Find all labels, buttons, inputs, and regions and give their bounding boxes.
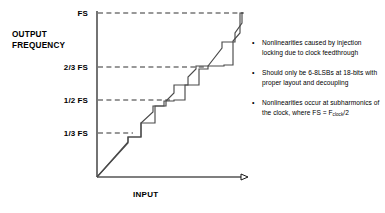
x-axis-title: INPUT bbox=[133, 190, 159, 199]
bullet-text-run: Nonlinearities occur at subharmonics of … bbox=[262, 99, 379, 116]
y-tick-label-half-fs: 1/2 FS bbox=[28, 96, 88, 105]
x-axis-arrow-icon bbox=[241, 174, 248, 180]
transfer-curve-steps bbox=[97, 13, 244, 177]
y-axis-title: OUTPUT FREQUENCY bbox=[12, 30, 65, 51]
transfer-function-figure: OUTPUT FREQUENCY FS 2/3 FS 1/2 FS 1/3 FS… bbox=[0, 0, 255, 213]
bullet-text: Nonlinearities occur at subharmonics of … bbox=[262, 98, 383, 118]
bullet-list: • Nonlinearities caused by injection loc… bbox=[252, 38, 383, 130]
bullet-text: Should only be 6-8LSBs at 18-bits with p… bbox=[262, 68, 383, 87]
slide-canvas: OUTPUT FREQUENCY FS 2/3 FS 1/2 FS 1/3 FS… bbox=[0, 0, 385, 213]
y-tick-label-third-fs: 1/3 FS bbox=[28, 129, 88, 138]
bullet-marker-icon: • bbox=[252, 68, 262, 78]
list-item: • Nonlinearities occur at subharmonics o… bbox=[252, 98, 383, 118]
y-axis-title-line1: OUTPUT bbox=[12, 30, 65, 41]
bullet-marker-icon: • bbox=[252, 98, 262, 108]
bullet-marker-icon: • bbox=[252, 38, 262, 48]
bullet-text: Nonlinearities caused by injection locki… bbox=[262, 38, 383, 57]
bullet-text-run: Nonlinearities caused by injection locki… bbox=[262, 39, 362, 56]
y-axis-title-line2: FREQUENCY bbox=[12, 41, 65, 52]
bullet-text-run: Should only be 6-8LSBs at 18-bits with p… bbox=[262, 69, 377, 86]
y-tick-label-two-thirds-fs: 2/3 FS bbox=[28, 63, 88, 72]
bullet-text-run: /2 bbox=[343, 109, 349, 116]
y-tick-label-fs: FS bbox=[28, 9, 88, 18]
bullet-subscript: clock bbox=[333, 112, 344, 117]
list-item: • Nonlinearities caused by injection loc… bbox=[252, 38, 383, 57]
list-item: • Should only be 6-8LSBs at 18-bits with… bbox=[252, 68, 383, 87]
